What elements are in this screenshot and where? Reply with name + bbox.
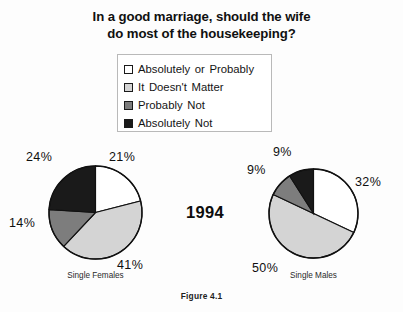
- pie-value-females-absolutely-not: 24%: [26, 150, 52, 164]
- pie-value-males-probably-not: 9%: [247, 163, 266, 177]
- legend-item-absolutely-or-probably: Absolutely or Probably: [124, 60, 271, 78]
- figure-caption: Figure 4.1: [0, 291, 403, 301]
- legend-label-it-doesnt-matter: It Doesn't Matter: [138, 81, 224, 93]
- legend-swatch-light-gray-icon: [124, 83, 133, 92]
- legend-item-it-doesnt-matter: It Doesn't Matter: [124, 78, 271, 96]
- legend-swatch-white-icon: [124, 65, 133, 74]
- legend-item-absolutely-not: Absolutely Not: [124, 114, 271, 132]
- legend-label-absolutely-not: Absolutely Not: [138, 117, 212, 129]
- legend-item-probably-not: Probably Not: [124, 96, 271, 114]
- pie-chart-single-females: [48, 165, 143, 260]
- page-title: In a good marriage, should the wife do m…: [0, 8, 403, 42]
- page-title-line-1: In a good marriage, should the wife: [0, 8, 403, 25]
- pie-svg-single-males: [268, 168, 359, 259]
- legend-swatch-black-icon: [124, 119, 133, 128]
- legend-label-probably-not: Probably Not: [138, 99, 205, 111]
- pie-value-females-probably-not: 14%: [9, 216, 35, 230]
- figure-root: In a good marriage, should the wife do m…: [0, 0, 403, 312]
- pie-value-males-absolutely-or-probably: 32%: [355, 175, 381, 189]
- pie-value-females-it-doesnt-matter: 41%: [117, 258, 143, 272]
- legend-label-absolutely-or-probably: Absolutely or Probably: [138, 63, 254, 75]
- legend-swatch-dark-gray-icon: [124, 101, 133, 110]
- pie-value-females-absolutely-or-probably: 21%: [109, 150, 135, 164]
- year-label: 1994: [168, 203, 242, 222]
- pie-caption-single-males: Single Males: [268, 271, 359, 280]
- page-title-line-2: do most of the housekeeping?: [0, 25, 403, 42]
- pie-caption-single-females: Single Females: [48, 271, 143, 280]
- chart-legend: Absolutely or Probably It Doesn't Matter…: [117, 54, 272, 132]
- pie-svg-single-females: [48, 165, 143, 260]
- pie-chart-single-males: [268, 168, 359, 259]
- pie-value-males-absolutely-not: 9%: [273, 145, 292, 159]
